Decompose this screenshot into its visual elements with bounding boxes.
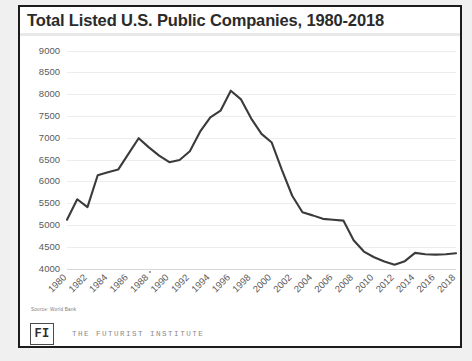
x-axis-tick-label: 2006	[312, 272, 335, 295]
y-axis-tick-label: 7000	[39, 132, 60, 143]
x-axis-tick-label: 1982	[66, 272, 89, 295]
y-axis-tick-label: 8500	[39, 66, 60, 77]
stray-marker-dot	[149, 271, 151, 273]
y-axis-tick-label: 6500	[39, 154, 60, 165]
x-axis-tick-label: 2000	[250, 272, 273, 295]
y-axis-tick-label: 4000	[39, 263, 60, 274]
y-axis-tick-label: 5500	[39, 197, 60, 208]
futurist-institute-logo: FI	[30, 323, 54, 345]
title-bar: Total Listed U.S. Public Companies, 1980…	[20, 7, 460, 33]
y-axis-tick-label: 6000	[39, 175, 60, 186]
chart-area: 9000850080007500700065006000550050004500…	[20, 37, 462, 305]
x-axis-tick-label: 2014	[394, 272, 417, 295]
y-axis-tick-labels: 9000850080007500700065006000550050004500…	[39, 45, 60, 274]
y-axis-tick-label: 9000	[39, 45, 60, 56]
x-axis-tick-label: 1998	[230, 272, 253, 295]
y-axis-tick-label: 7500	[39, 110, 60, 121]
x-axis-tick-label: 2018	[435, 272, 458, 295]
y-axis-tick-label: 4500	[39, 241, 60, 252]
logo-monogram: FI	[34, 328, 49, 340]
x-axis-tick-label: 2016	[414, 272, 437, 295]
y-axis-tick-label: 5000	[39, 219, 60, 230]
x-axis-tick-label: 1992	[169, 272, 192, 295]
x-axis-tick-label: 1980	[46, 272, 69, 295]
x-axis-tick-label: 2002	[271, 272, 294, 295]
title-divider	[20, 33, 460, 36]
x-axis-tick-label: 2010	[353, 272, 376, 295]
y-axis-tick-label: 8000	[39, 88, 60, 99]
brand-name-label: THE FUTURIST INSTITUTE	[72, 330, 204, 338]
slide-card: Total Listed U.S. Public Companies, 1980…	[18, 5, 462, 348]
slide-page: Total Listed U.S. Public Companies, 1980…	[0, 0, 472, 361]
x-axis-tick-label: 2008	[332, 272, 355, 295]
x-axis-tick-label: 1984	[87, 272, 110, 295]
x-axis-tick-label: 1996	[209, 272, 232, 295]
x-axis-tick-label: 1986	[107, 272, 130, 295]
x-axis-tick-label: 1990	[148, 272, 171, 295]
x-axis-tick-labels: 1980198219841986198819901992199419961998…	[46, 272, 458, 295]
page-title: Total Listed U.S. Public Companies, 1980…	[27, 9, 460, 31]
source-note: Source: World Bank	[31, 307, 76, 312]
x-axis-tick-label: 2012	[373, 272, 396, 295]
line-chart: 9000850080007500700065006000550050004500…	[20, 37, 462, 305]
x-axis-tick-label: 2004	[291, 272, 314, 295]
x-axis-tick-label: 1994	[189, 272, 212, 295]
x-axis-tick-label: 1988	[128, 272, 151, 295]
footer-brand-bar: FI THE FUTURIST INSTITUTE	[20, 317, 460, 348]
